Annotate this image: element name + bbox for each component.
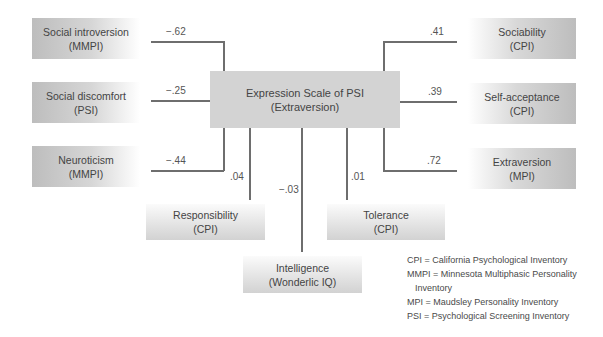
node-source: (MPI): [509, 169, 535, 183]
coef-neuroticism: −.44: [166, 155, 186, 166]
node-tolerance: Tolerance (CPI): [327, 204, 445, 240]
abbreviation-legend: CPI = California Psychological Inventory…: [407, 253, 577, 323]
node-source: (CPI): [510, 39, 535, 53]
node-label: Neuroticism: [58, 153, 113, 167]
connector-extraversion-h: [383, 170, 457, 172]
node-social-introversion: Social introversion (MMPI): [32, 18, 140, 59]
center-node-expression-scale: Expression Scale of PSI (Extraversion): [210, 71, 400, 128]
node-intelligence: Intelligence (Wonderlic IQ): [243, 256, 362, 293]
connector-neuroticism-v: [223, 128, 225, 171]
node-neuroticism: Neuroticism (MMPI): [32, 146, 140, 187]
connector-extraversion-v: [383, 128, 385, 171]
node-source: (MMPI): [69, 167, 103, 181]
node-responsibility: Responsibility (CPI): [146, 204, 265, 240]
node-source: (CPI): [510, 104, 535, 118]
node-source: (Wonderlic IQ): [269, 275, 337, 289]
coef-intelligence: −.03: [279, 184, 299, 195]
node-label: Tolerance: [363, 208, 409, 222]
coef-sociability: .41: [430, 26, 444, 37]
connector-tolerance: [346, 128, 348, 200]
center-node-title: Expression Scale of PSI: [246, 86, 364, 100]
node-source: (MMPI): [69, 39, 103, 53]
node-extraversion: Extraversion (MPI): [468, 148, 576, 189]
node-label: Intelligence: [276, 261, 329, 275]
connector-social-discomfort: [151, 100, 210, 102]
node-label: Social introversion: [43, 25, 129, 39]
coef-self-acceptance: .39: [428, 86, 442, 97]
connector-social-introversion-v: [223, 41, 225, 71]
legend-item-cpi: CPI = California Psychological Inventory: [407, 253, 577, 267]
connector-sociability-v: [383, 41, 385, 71]
node-source: (CPI): [193, 222, 218, 236]
connector-self-acceptance: [400, 101, 457, 103]
coef-extraversion: .72: [427, 155, 441, 166]
node-label: Self-acceptance: [484, 90, 559, 104]
node-label: Responsibility: [173, 208, 238, 222]
node-self-acceptance: Self-acceptance (CPI): [468, 83, 576, 124]
legend-item-mmpi: MMPI = Minnesota Multiphasic Personality: [407, 267, 577, 281]
coef-responsibility: .04: [230, 171, 244, 182]
coef-tolerance: .01: [351, 171, 365, 182]
node-social-discomfort: Social discomfort (PSI): [32, 82, 140, 123]
node-label: Sociability: [498, 25, 545, 39]
connector-neuroticism-h: [151, 170, 224, 172]
node-label: Social discomfort: [46, 89, 126, 103]
legend-item-mmpi-cont: Inventory: [407, 281, 577, 295]
connector-responsibility: [249, 128, 251, 200]
legend-item-psi: PSI = Psychological Screening Inventory: [407, 309, 577, 323]
node-source: (PSI): [74, 103, 98, 117]
node-sociability: Sociability (CPI): [468, 18, 576, 59]
coef-social-discomfort: −.25: [166, 85, 186, 96]
center-node-subtitle: (Extraversion): [271, 100, 339, 114]
node-source: (CPI): [374, 222, 399, 236]
node-label: Extraversion: [493, 155, 551, 169]
connector-intelligence: [301, 128, 303, 252]
connector-social-introversion-h: [151, 41, 224, 43]
legend-item-mpi: MPI = Maudsley Personality Inventory: [407, 295, 577, 309]
connector-sociability-h: [383, 41, 457, 43]
coef-social-introversion: −.62: [166, 26, 186, 37]
